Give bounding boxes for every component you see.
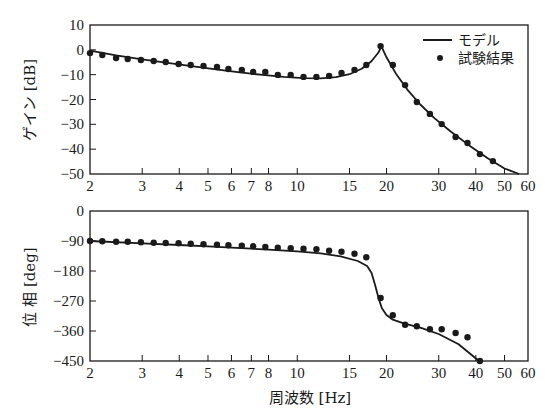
y-tick-label: −90 xyxy=(61,233,84,249)
test-data-point xyxy=(214,64,220,70)
x-tick-label: 7 xyxy=(248,178,256,194)
test-data-point xyxy=(390,312,396,318)
test-data-point xyxy=(363,254,369,260)
y-tick-label: 0 xyxy=(77,203,85,219)
test-data-point xyxy=(300,246,306,252)
legend-marker-icon xyxy=(437,55,443,61)
x-tick-label: 6 xyxy=(228,365,236,381)
x-axis-title: 周波数 [Hz] xyxy=(269,389,351,407)
x-tick-label: 50 xyxy=(497,365,512,381)
y-tick-label: −30 xyxy=(61,116,84,132)
test-data-point xyxy=(239,243,245,249)
test-data-point xyxy=(377,43,383,49)
y-tick-label: −10 xyxy=(61,67,84,83)
legend: モデル 試験結果 xyxy=(423,32,514,66)
model-line xyxy=(90,46,519,174)
x-tick-label: 60 xyxy=(521,365,536,381)
x-tick-label: 8 xyxy=(265,178,273,194)
test-data-point xyxy=(138,239,144,245)
x-tick-label: 30 xyxy=(431,178,446,194)
test-data-point xyxy=(250,69,256,75)
y-tick-label: −50 xyxy=(61,166,84,182)
phase-plot: 2345678101520304050600−90−180−270−360−45… xyxy=(53,203,535,381)
x-tick-label: 20 xyxy=(379,365,394,381)
test-data-point xyxy=(175,240,181,246)
y-tick-label: 0 xyxy=(77,42,85,58)
test-data-point xyxy=(402,322,408,328)
test-data-point xyxy=(464,334,470,340)
test-data-point xyxy=(351,251,357,257)
test-data-point xyxy=(427,326,433,332)
bode-plot: 234567810152030405060100−10−20−30−40−50 … xyxy=(0,0,545,416)
x-tick-label: 3 xyxy=(138,178,146,194)
test-data-point xyxy=(338,249,344,255)
test-data-point xyxy=(477,358,483,364)
test-data-point xyxy=(439,121,445,127)
test-data-point xyxy=(326,73,332,79)
test-data-point xyxy=(351,67,357,73)
test-data-point xyxy=(163,59,169,65)
x-tick-label: 3 xyxy=(138,365,146,381)
test-data-point xyxy=(151,58,157,64)
test-data-point xyxy=(288,245,294,251)
x-tick-label: 5 xyxy=(204,365,212,381)
test-data-point xyxy=(250,243,256,249)
x-tick-label: 4 xyxy=(176,178,184,194)
x-tick-label: 40 xyxy=(468,365,483,381)
test-data-point xyxy=(402,82,408,88)
y-tick-label: 10 xyxy=(69,17,84,33)
test-data-point xyxy=(313,74,319,80)
test-data-point xyxy=(99,238,105,244)
y-tick-label: −450 xyxy=(53,353,84,369)
legend-label-test: 試験結果 xyxy=(458,50,514,66)
test-data-point xyxy=(125,239,131,245)
test-data-point xyxy=(87,238,93,244)
test-data-point xyxy=(452,134,458,140)
test-data-point xyxy=(125,56,131,62)
test-data-point xyxy=(214,242,220,248)
test-data-point xyxy=(200,63,206,69)
x-tick-label: 7 xyxy=(248,365,256,381)
test-data-point xyxy=(239,67,245,73)
x-tick-label: 60 xyxy=(521,178,536,194)
test-data-point xyxy=(175,61,181,67)
test-data-point xyxy=(113,239,119,245)
test-data-point xyxy=(163,240,169,246)
test-data-point xyxy=(138,57,144,63)
x-tick-label: 6 xyxy=(228,178,236,194)
y-tick-label: −40 xyxy=(61,141,84,157)
test-data-point xyxy=(313,246,319,252)
top-y-axis-title: ゲイン [dB] xyxy=(21,59,39,141)
x-tick-label: 30 xyxy=(431,365,446,381)
y-tick-label: −270 xyxy=(53,293,84,309)
test-data-point xyxy=(99,52,105,58)
test-data-point xyxy=(87,50,93,56)
x-tick-label: 10 xyxy=(290,365,305,381)
test-data-point xyxy=(200,241,206,247)
test-data-point xyxy=(363,62,369,68)
test-data-point xyxy=(427,111,433,117)
test-data-point xyxy=(439,326,445,332)
test-data-point xyxy=(262,244,268,250)
test-data-point xyxy=(288,72,294,78)
bottom-y-axis-title: 位 相 [deg] xyxy=(21,247,39,326)
test-data-point xyxy=(300,74,306,80)
test-data-point xyxy=(262,69,268,75)
test-data-point xyxy=(464,140,470,146)
x-tick-label: 5 xyxy=(204,178,212,194)
x-tick-label: 10 xyxy=(290,178,305,194)
x-tick-label: 4 xyxy=(176,365,184,381)
test-data-point xyxy=(326,248,332,254)
test-data-point xyxy=(390,62,396,68)
test-data-point xyxy=(490,158,496,164)
test-data-point xyxy=(151,240,157,246)
y-tick-label: −180 xyxy=(53,263,84,279)
model-line xyxy=(90,241,479,361)
x-tick-label: 2 xyxy=(86,365,94,381)
y-tick-label: −360 xyxy=(53,323,84,339)
plot-frame xyxy=(90,211,528,361)
x-tick-label: 8 xyxy=(265,365,273,381)
x-tick-label: 15 xyxy=(342,178,357,194)
test-data-point xyxy=(275,245,281,251)
test-data-point xyxy=(414,323,420,329)
